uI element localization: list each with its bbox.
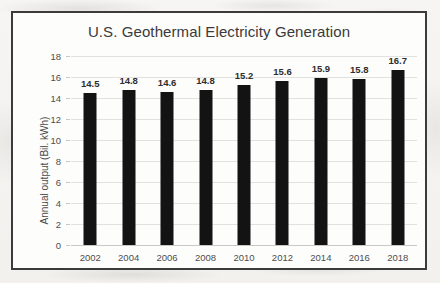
y-tick-label: 14 (21, 93, 61, 104)
y-tick-mark (66, 182, 70, 183)
y-tick-label: 10 (21, 135, 61, 146)
bar-group: 14.52002 (71, 56, 109, 245)
x-tick-label: 2012 (272, 252, 293, 263)
bar[interactable] (391, 70, 404, 245)
y-tick-mark (66, 140, 70, 141)
bar-value-label: 15.8 (350, 64, 369, 75)
bar-group: 14.82004 (109, 56, 147, 245)
gridline (71, 245, 417, 246)
bar[interactable] (237, 85, 250, 245)
x-tick-label: 2010 (233, 252, 254, 263)
bar-group: 14.82008 (186, 56, 224, 245)
bar[interactable] (199, 90, 212, 245)
y-tick-mark (66, 224, 70, 225)
bar-value-label: 14.6 (158, 77, 177, 88)
plot-area: 024681012141618 14.5200214.8200414.62006… (71, 56, 417, 245)
bar-value-label: 14.5 (81, 78, 100, 89)
y-tick-label: 16 (21, 72, 61, 83)
x-tick-label: 2006 (157, 252, 178, 263)
y-tick-mark (66, 119, 70, 120)
bar[interactable] (353, 79, 366, 245)
y-tick-label: 6 (21, 177, 61, 188)
x-tick-label: 2018 (387, 252, 408, 263)
y-tick-label: 4 (21, 198, 61, 209)
bar-value-label: 14.8 (196, 75, 215, 86)
bar-group: 14.62006 (148, 56, 186, 245)
y-tick-label: 2 (21, 219, 61, 230)
chart-title: U.S. Geothermal Electricity Generation (13, 23, 425, 40)
x-tick-label: 2002 (80, 252, 101, 263)
chart-frame: U.S. Geothermal Electricity Generation A… (11, 11, 427, 270)
y-tick-mark (66, 98, 70, 99)
bar[interactable] (161, 92, 174, 245)
bar-group: 15.92014 (302, 56, 340, 245)
bar[interactable] (314, 78, 327, 245)
bar[interactable] (122, 90, 135, 245)
bar-series: 14.5200214.8200414.6200614.8200815.22010… (71, 56, 417, 245)
y-tick-mark (66, 245, 70, 246)
x-tick-label: 2014 (310, 252, 331, 263)
bar-group: 15.22010 (225, 56, 263, 245)
y-tick-label: 18 (21, 51, 61, 62)
y-tick-label: 8 (21, 156, 61, 167)
x-tick-label: 2008 (195, 252, 216, 263)
bar[interactable] (84, 93, 97, 245)
bar-group: 15.62012 (263, 56, 301, 245)
y-tick-mark (66, 56, 70, 57)
bar-value-label: 16.7 (389, 55, 408, 66)
y-tick-mark (66, 161, 70, 162)
bar-group: 16.72018 (379, 56, 417, 245)
y-tick-mark (66, 77, 70, 78)
bar-value-label: 15.6 (273, 66, 292, 77)
x-tick-label: 2016 (349, 252, 370, 263)
y-tick-mark (66, 203, 70, 204)
bar-value-label: 15.9 (312, 63, 331, 74)
bar-value-label: 14.8 (119, 75, 138, 86)
x-tick-label: 2004 (118, 252, 139, 263)
bar[interactable] (276, 81, 289, 245)
bar-value-label: 15.2 (235, 70, 254, 81)
y-tick-label: 0 (21, 240, 61, 251)
bar-group: 15.82016 (340, 56, 378, 245)
y-tick-label: 12 (21, 114, 61, 125)
